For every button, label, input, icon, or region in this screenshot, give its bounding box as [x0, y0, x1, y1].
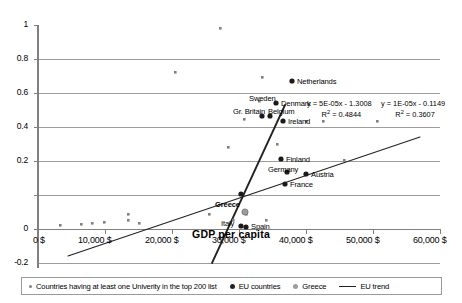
trend-equation-eu: y = 5E-05x - 1.3008 R2 = 0.4844 — [307, 99, 372, 119]
legend-item-eu-countries: EU countries — [230, 282, 281, 291]
trend-r2-eu: R2 = 0.4844 — [307, 108, 372, 119]
point-label-austria: Austria — [311, 170, 334, 179]
legend-label-top200: Countries having at least one Univerity … — [36, 282, 217, 291]
y-tick-1: 1 — [2, 19, 28, 29]
legend-label-eu-trend: EU trend — [360, 282, 389, 291]
y-tick-0-2: 0.2 — [2, 155, 28, 165]
chart-legend: Countries having at least one Univerity … — [21, 277, 442, 295]
point-label-italy: Italy — [221, 219, 234, 228]
trend-line-icon — [339, 286, 356, 287]
y-tick-0-8: 0.8 — [2, 53, 28, 63]
point-label-germany: Germany — [268, 165, 298, 174]
legend-item-greece: Greece — [293, 282, 326, 291]
y-tick-0-6: 0.6 — [2, 87, 28, 97]
point-label-france: France — [290, 180, 313, 189]
large-black-dot-icon — [230, 284, 235, 289]
legend-item-eu-trend: EU trend — [339, 282, 389, 291]
point-label-greece: Greece — [215, 200, 240, 209]
point-label-sweden: Sweden — [249, 94, 276, 103]
legend-label-eu-countries: EU countries — [239, 282, 281, 291]
legend-label-greece: Greece — [302, 282, 326, 291]
x-axis-title: GDP per capita — [0, 228, 462, 240]
point-label-spain: Spain — [251, 222, 270, 231]
point-label-gr-britain: Gr. Britain — [233, 107, 265, 116]
trend-r2-all: R2 = 0.3607 — [381, 108, 445, 119]
trend-equation-eu-text: y = 5E-05x - 1.3008 — [307, 99, 372, 108]
trend-equation-all-text: y = 1E-05x - 0.1149 — [381, 99, 445, 108]
scatter-plot-area: 1 0.8 0.6 0.4 0.2 0 -0.2 0 $ 10,000 $ 20… — [0, 0, 462, 303]
trend-equation-all: y = 1E-05x - 0.1149 R2 = 0.3607 — [381, 99, 445, 119]
point-label-netherlands: Netherlands — [297, 77, 336, 86]
y-tick-neg-0-2: -0.2 — [0, 257, 28, 267]
point-label-finland: Finland — [286, 155, 310, 164]
point-label-belgium: Belgium — [268, 107, 294, 116]
legend-item-top200: Countries having at least one Univerity … — [29, 282, 217, 291]
small-grey-dot-icon — [29, 285, 32, 288]
chart-figure: 1 0.8 0.6 0.4 0.2 0 -0.2 0 $ 10,000 $ 20… — [0, 0, 462, 303]
y-tick-0-4: 0.4 — [2, 121, 28, 131]
series-greece-marker — [242, 209, 248, 215]
grey-dot-icon — [293, 284, 298, 289]
plot-canvas — [0, 0, 462, 303]
